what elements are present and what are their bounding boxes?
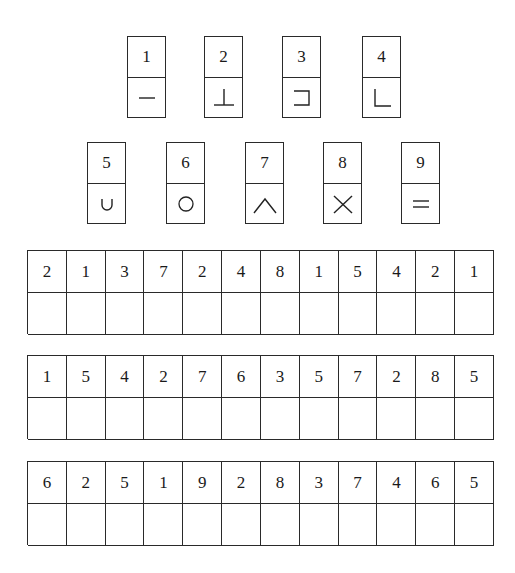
key-box-6: 6: [166, 142, 205, 224]
digit-cell: 7: [144, 251, 183, 293]
caret-icon: [246, 184, 283, 223]
key-digit: 7: [246, 143, 283, 184]
key-box-3: 3: [282, 36, 321, 118]
digit-cell: 7: [183, 356, 222, 398]
key-box-4: 4: [362, 36, 401, 118]
answer-cell[interactable]: [183, 398, 222, 440]
answer-cell[interactable]: [106, 398, 145, 440]
digit-cell: 3: [261, 356, 300, 398]
digit-cell: 1: [300, 251, 339, 293]
cup-icon: [88, 184, 125, 223]
cross-icon: [324, 184, 361, 223]
digit-cell: 4: [106, 356, 145, 398]
key-digit: 3: [283, 37, 320, 78]
answer-cell[interactable]: [144, 398, 183, 440]
digit-cell: 1: [144, 462, 183, 504]
digit-cell: 3: [106, 251, 145, 293]
digit-cell: 5: [300, 356, 339, 398]
digit-cell: 5: [106, 462, 145, 504]
key-box-5: 5: [87, 142, 126, 224]
key-box-1: 1: [127, 36, 166, 118]
digit-cell: 2: [28, 251, 67, 293]
digit-cell: 8: [261, 462, 300, 504]
answer-grid-3: 625192837465: [27, 461, 494, 545]
answer-cell[interactable]: [300, 504, 339, 546]
answer-cell[interactable]: [377, 398, 416, 440]
answer-cell[interactable]: [261, 398, 300, 440]
answer-cell[interactable]: [416, 504, 455, 546]
digit-cell: 1: [455, 251, 494, 293]
digit-cell: 1: [67, 251, 106, 293]
key-digit: 4: [363, 37, 400, 78]
digit-cell: 8: [261, 251, 300, 293]
answer-cell[interactable]: [144, 504, 183, 546]
digit-cell: 2: [416, 251, 455, 293]
digit-cell: 6: [416, 462, 455, 504]
key-digit: 1: [128, 37, 165, 78]
equals-icon: [402, 184, 439, 223]
digit-cell: 7: [339, 462, 378, 504]
answer-cell[interactable]: [455, 293, 494, 335]
digit-cell: 5: [455, 356, 494, 398]
answer-cell[interactable]: [377, 293, 416, 335]
circle-icon: [167, 184, 204, 223]
digit-cell: 4: [222, 251, 261, 293]
answer-cell[interactable]: [339, 398, 378, 440]
answer-cell[interactable]: [455, 398, 494, 440]
answer-cell[interactable]: [67, 398, 106, 440]
up-tack-icon: [205, 78, 242, 117]
answer-cell[interactable]: [28, 398, 67, 440]
digit-cell: 3: [300, 462, 339, 504]
answer-cell[interactable]: [67, 504, 106, 546]
answer-cell[interactable]: [183, 504, 222, 546]
key-digit: 2: [205, 37, 242, 78]
answer-cell[interactable]: [222, 504, 261, 546]
answer-cell[interactable]: [261, 293, 300, 335]
answer-cell[interactable]: [339, 504, 378, 546]
key-box-8: 8: [323, 142, 362, 224]
answer-cell[interactable]: [300, 398, 339, 440]
answer-cell[interactable]: [222, 293, 261, 335]
key-digit: 9: [402, 143, 439, 184]
answer-cell[interactable]: [28, 504, 67, 546]
answer-cell[interactable]: [28, 293, 67, 335]
digit-cell: 1: [28, 356, 67, 398]
answer-grid-2: 154276357285: [27, 355, 494, 439]
digit-cell: 6: [28, 462, 67, 504]
digit-cell: 8: [416, 356, 455, 398]
digit-cell: 6: [222, 356, 261, 398]
answer-cell[interactable]: [300, 293, 339, 335]
answer-cell[interactable]: [377, 504, 416, 546]
answer-cell[interactable]: [416, 398, 455, 440]
digit-cell: 2: [67, 462, 106, 504]
digit-cell: 5: [67, 356, 106, 398]
digit-cell: 4: [377, 462, 416, 504]
key-box-9: 9: [401, 142, 440, 224]
answer-cell[interactable]: [183, 293, 222, 335]
digit-cell: 2: [377, 356, 416, 398]
horizontal-line-icon: [128, 78, 165, 117]
answer-cell[interactable]: [106, 504, 145, 546]
answer-cell[interactable]: [144, 293, 183, 335]
right-bracket-icon: [283, 78, 320, 117]
digit-cell: 9: [183, 462, 222, 504]
answer-cell[interactable]: [455, 504, 494, 546]
digit-cell: 5: [339, 251, 378, 293]
answer-cell[interactable]: [416, 293, 455, 335]
key-box-2: 2: [204, 36, 243, 118]
answer-cell[interactable]: [67, 293, 106, 335]
key-digit: 8: [324, 143, 361, 184]
answer-cell[interactable]: [261, 504, 300, 546]
digit-cell: 2: [222, 462, 261, 504]
digit-cell: 2: [183, 251, 222, 293]
l-corner-icon: [363, 78, 400, 117]
key-box-7: 7: [245, 142, 284, 224]
digit-cell: 5: [455, 462, 494, 504]
digit-cell: 4: [377, 251, 416, 293]
key-digit: 6: [167, 143, 204, 184]
answer-cell[interactable]: [106, 293, 145, 335]
answer-grid-1: 213724815421: [27, 250, 494, 334]
answer-cell[interactable]: [222, 398, 261, 440]
answer-cell[interactable]: [339, 293, 378, 335]
digit-cell: 7: [339, 356, 378, 398]
